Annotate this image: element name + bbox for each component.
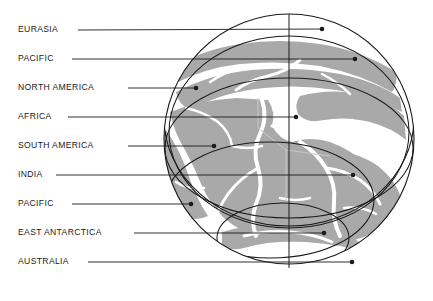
label-text-south-america: SOUTH AMERICA: [18, 140, 94, 150]
marker-dot-pacific-south: [189, 202, 194, 207]
marker-dot-africa: [294, 115, 299, 120]
marker-dot-south-america: [212, 144, 217, 149]
label-text-pacific-north: PACIFIC: [18, 53, 54, 63]
callout-north-america[interactable]: NORTH AMERICA: [18, 82, 198, 92]
marker-dot-australia: [350, 260, 355, 265]
label-text-eurasia: EURASIA: [18, 24, 58, 34]
label-text-africa: AFRICA: [18, 111, 52, 121]
label-text-india: INDIA: [18, 169, 43, 179]
marker-dot-north-america: [194, 86, 199, 91]
marker-dot-india: [351, 173, 356, 178]
diagram-canvas: EURASIAPACIFICNORTH AMERICAAFRICASOUTH A…: [0, 0, 433, 301]
earth-cutaway-globe-diagram: EURASIAPACIFICNORTH AMERICAAFRICASOUTH A…: [0, 0, 433, 301]
callout-pacific-south[interactable]: PACIFIC: [18, 198, 193, 208]
label-text-north-america: NORTH AMERICA: [18, 82, 94, 92]
marker-dot-east-antarctica: [322, 231, 327, 236]
label-text-east-antarctica: EAST ANTARCTICA: [18, 227, 102, 237]
marker-dot-eurasia: [320, 27, 325, 32]
marker-dot-pacific-north: [353, 57, 358, 62]
label-text-pacific-south: PACIFIC: [18, 198, 54, 208]
label-text-australia: AUSTRALIA: [18, 256, 69, 266]
